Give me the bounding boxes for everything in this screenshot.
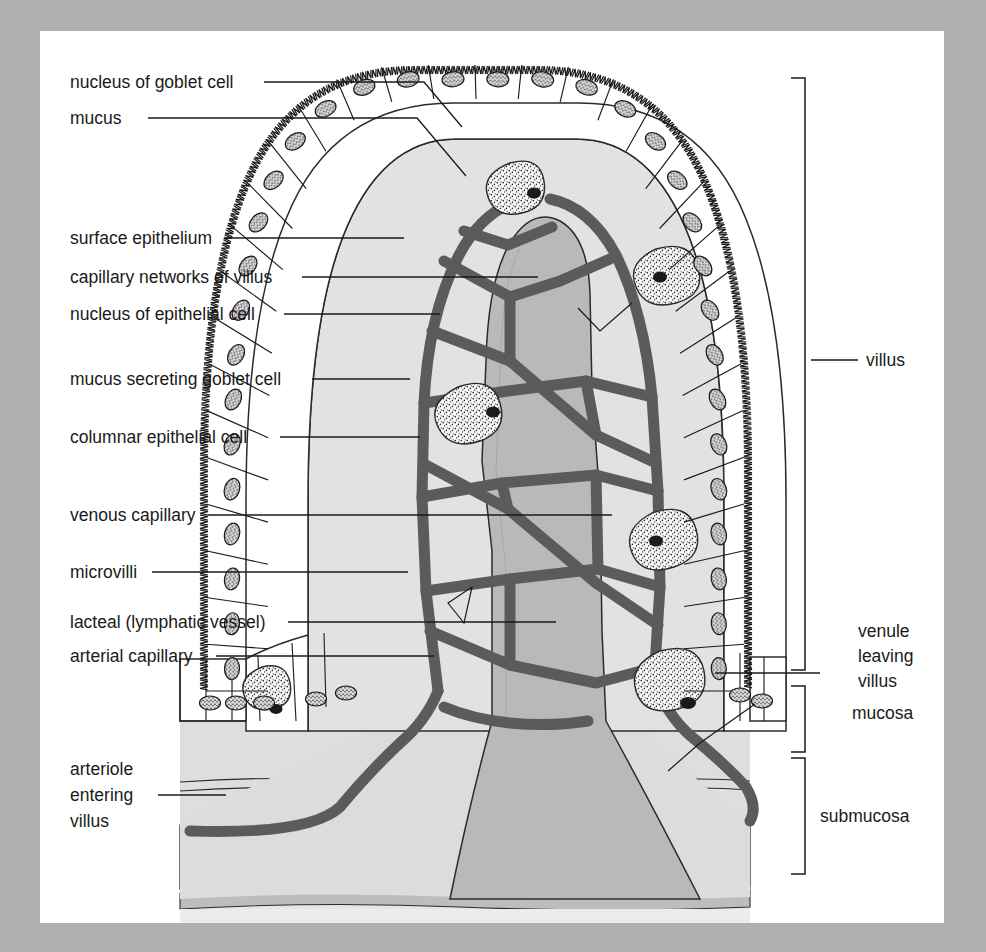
label-nucleus-of-goblet-cell: nucleus of goblet cell	[70, 72, 233, 92]
label-mucus: mucus	[70, 108, 122, 128]
label-nucleus-of-epithelial-cell: nucleus of epithelial cell	[70, 304, 255, 324]
nucleus-of-epithelial-cell	[222, 521, 242, 546]
label-microvilli: microvilli	[70, 562, 137, 582]
label-venule-leaving-villus-1: leaving	[858, 646, 913, 666]
nucleus-of-epithelial-cell	[396, 70, 421, 90]
submucosa-bracket	[791, 758, 805, 874]
nucleus-of-epithelial-cell	[222, 386, 245, 412]
villus-diagram: nucleus of goblet cellmucussurface epith…	[40, 31, 944, 923]
nucleus-of-epithelial-cell	[224, 657, 240, 680]
nucleus-of-epithelial-cell	[711, 657, 727, 680]
nucleus-of-epithelial-cell	[260, 167, 286, 193]
mucosa-bracket	[791, 686, 805, 752]
nucleus-of-epithelial-cell	[312, 97, 338, 120]
label-villus: villus	[866, 350, 905, 370]
label-venule-leaving-villus-2: villus	[858, 671, 897, 691]
label-mucus-secreting-goblet-cell: mucus secreting goblet cell	[70, 369, 281, 389]
label-capillary-networks-of-villus: capillary networks of villus	[70, 267, 273, 287]
nucleus-of-epithelial-cell	[246, 209, 272, 235]
nucleus-of-epithelial-cell	[221, 476, 242, 502]
villus-bracket	[791, 78, 805, 670]
nucleus-of-epithelial-cell	[730, 688, 751, 702]
label-columnar-epithelial-cell: columnar epithelial cell	[70, 427, 247, 447]
screenshot-root: nucleus of goblet cellmucussurface epith…	[0, 0, 986, 952]
nucleus-of-epithelial-cell	[336, 686, 357, 700]
nucleus-of-epithelial-cell	[226, 696, 247, 710]
label-arterial-capillary: arterial capillary	[70, 646, 193, 666]
label-surface-epithelium: surface epithelium	[70, 228, 212, 248]
nucleus-of-epithelial-cell	[306, 692, 327, 706]
label-venule-leaving-villus-0: venule	[858, 621, 910, 641]
region-brackets	[791, 78, 805, 874]
nucleus-of-epithelial-cell	[487, 71, 510, 87]
label-submucosa: submucosa	[820, 806, 910, 826]
nucleus-of-epithelial-cell	[223, 567, 242, 591]
cell-division	[475, 65, 476, 99]
nucleus-of-epithelial-cell	[224, 342, 248, 369]
label-arteriole-entering-villus-0: arteriole	[70, 759, 133, 779]
cell-division	[337, 79, 354, 120]
nucleus-of-epithelial-cell	[200, 696, 221, 710]
nucleus-of-epithelial-cell	[282, 129, 309, 154]
label-arteriole-entering-villus-2: villus	[70, 811, 109, 831]
nucleus-of-epithelial-cell	[254, 696, 275, 710]
nucleus-of-epithelial-cell	[752, 694, 773, 708]
label-arteriole-entering-villus-1: entering	[70, 785, 133, 805]
figure-page: nucleus of goblet cellmucussurface epith…	[40, 31, 944, 923]
label-venous-capillary: venous capillary	[70, 505, 196, 525]
nucleus-of-epithelial-cell	[441, 71, 464, 88]
label-mucosa: mucosa	[852, 703, 914, 723]
label-lacteal-lymphatic-vessel: lacteal (lymphatic vessel)	[70, 612, 265, 632]
